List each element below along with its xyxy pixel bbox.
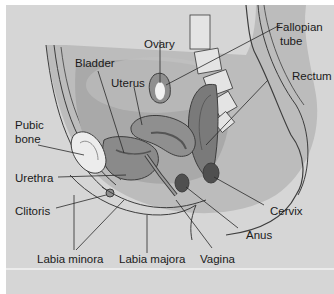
label-pubic-bone-line1: Pubic	[15, 119, 44, 132]
label-ovary: Ovary	[144, 38, 175, 51]
caption-divider	[6, 268, 334, 270]
label-labia-minora: Labia minora	[37, 253, 103, 266]
anatomy-figure: Ovary Fallopian tube Bladder Uterus Rect…	[6, 5, 334, 294]
label-fallopian-tube-line2: tube	[280, 35, 302, 48]
label-pubic-bone-line2: bone	[15, 133, 41, 146]
label-vagina: Vagina	[200, 253, 235, 266]
cervix	[203, 163, 219, 183]
label-labia-majora: Labia majora	[119, 253, 185, 266]
label-fallopian-tube-line1: Fallopian	[276, 21, 323, 34]
label-rectum: Rectum	[292, 70, 332, 83]
anus	[175, 174, 189, 192]
label-bladder: Bladder	[75, 57, 115, 70]
label-urethra: Urethra	[15, 172, 53, 185]
label-clitoris: Clitoris	[15, 205, 50, 218]
label-anus: Anus	[246, 229, 272, 242]
label-uterus: Uterus	[111, 77, 145, 90]
label-cervix: Cervix	[270, 205, 303, 218]
